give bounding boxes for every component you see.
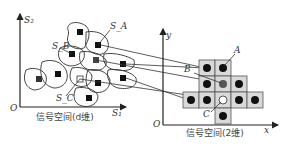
left-axis-y-label: S₂ [24, 16, 34, 25]
region-label-b: S_B [52, 42, 69, 51]
left-axis-x-label: S₁ [112, 109, 122, 118]
right-origin-label: O [153, 120, 160, 129]
point-label-b: B [184, 65, 191, 74]
right-caption: 信号空间(2维) [186, 129, 244, 138]
point-label-c: C [203, 110, 210, 119]
region-label-a: S_A [110, 22, 127, 31]
left-origin-label: O [10, 104, 17, 113]
diagram-canvas [0, 0, 286, 146]
right-axis-y-label: y [166, 31, 171, 40]
right-axis-x-label: x [264, 126, 269, 135]
signal-points-left [36, 29, 126, 101]
left-caption: 信号空间(d维) [36, 113, 94, 122]
point-label-a: A [234, 46, 241, 55]
region-label-c: S_C [56, 94, 74, 103]
